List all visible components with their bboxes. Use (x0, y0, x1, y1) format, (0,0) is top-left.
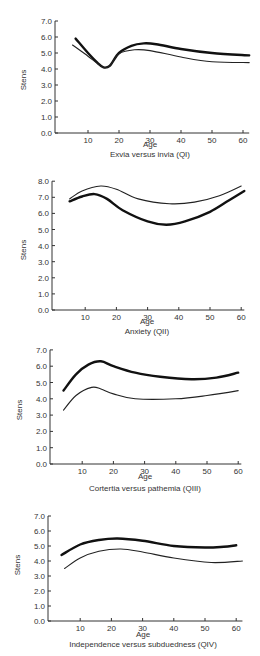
y-tick-label: 4.0 (36, 395, 48, 404)
axes (48, 516, 242, 621)
x-tick-label: 40 (174, 313, 183, 322)
x-tick-label: 50 (201, 624, 210, 633)
chart-caption: Anxiety (QII) (125, 327, 170, 336)
x-tick-label: 10 (76, 624, 85, 633)
y-tick-label: 6.0 (38, 209, 50, 218)
y-axis-label: Stens (15, 400, 24, 420)
x-tick-label: 60 (234, 467, 243, 476)
x-tick-label: 40 (171, 467, 180, 476)
y-tick-label: 5.0 (36, 379, 48, 388)
x-tick-label: 50 (208, 136, 217, 145)
chart-caption: Cortertia versus pathemia (QIII) (89, 484, 201, 493)
stens-by-age-figure: Exvia versus invia (QI) Age Stens 0.01.0… (0, 0, 260, 656)
series-line-thin (64, 387, 239, 410)
y-tick-label: 4.0 (34, 557, 46, 566)
y-axis-label: Stens (19, 240, 28, 260)
y-tick-label: 2.0 (34, 587, 46, 596)
x-tick-label: 30 (138, 624, 147, 633)
y-tick-label: 5.0 (38, 226, 50, 235)
x-tick-label: 50 (206, 313, 215, 322)
chart-caption: Exvia versus invia (QI) (110, 150, 190, 159)
y-tick-label: 0.0 (36, 460, 48, 469)
x-tick-label: 60 (239, 136, 248, 145)
y-axis-label: Stens (19, 70, 28, 90)
chart-cortertia-versus-pathemia: Cortertia versus pathemia (QIII) Age Ste… (15, 346, 243, 493)
series-line-thin (65, 549, 243, 569)
y-tick-label: 3.0 (41, 81, 53, 90)
x-tick-label: 20 (107, 624, 116, 633)
x-tick-label: 40 (169, 624, 178, 633)
series-line-thin (73, 45, 250, 68)
y-tick-label: 7.0 (41, 17, 53, 26)
y-tick-label: 3.0 (38, 258, 50, 267)
y-tick-label: 6.0 (36, 362, 48, 371)
axes (55, 21, 249, 133)
y-tick-label: 2.0 (41, 97, 53, 106)
chart-independence-versus-subduedness: Independence versus subduedness (QIV) Ag… (13, 512, 242, 649)
y-tick-label: 2.0 (36, 427, 48, 436)
y-axis-label: Stens (13, 555, 22, 575)
x-tick-label: 20 (112, 313, 121, 322)
y-tick-label: 3.0 (36, 411, 48, 420)
y-tick-label: 5.0 (41, 49, 53, 58)
y-tick-label: 7.0 (36, 346, 48, 355)
x-tick-label: 50 (203, 467, 212, 476)
x-tick-label: 20 (115, 136, 124, 145)
x-tick-label: 30 (143, 313, 152, 322)
x-tick-label: 10 (81, 313, 90, 322)
chart-anxiety: Anxiety (QII) Age Stens 0.01.02.03.04.05… (19, 177, 246, 336)
y-tick-label: 2.0 (38, 274, 50, 283)
series-line-thick (62, 538, 237, 555)
x-tick-label: 40 (177, 136, 186, 145)
y-tick-label: 1.0 (34, 602, 46, 611)
y-tick-label: 1.0 (41, 113, 53, 122)
chart-caption: Independence versus subduedness (QIV) (69, 640, 217, 649)
y-tick-label: 5.0 (34, 542, 46, 551)
y-tick-label: 6.0 (41, 33, 53, 42)
y-tick-label: 4.0 (41, 65, 53, 74)
y-tick-label: 0.0 (38, 306, 50, 315)
y-tick-label: 3.0 (34, 572, 46, 581)
y-tick-label: 0.0 (41, 129, 53, 138)
chart-exvia-versus-invia: Exvia versus invia (QI) Age Stens 0.01.0… (19, 17, 249, 159)
y-tick-label: 0.0 (34, 617, 46, 626)
y-tick-label: 8.0 (38, 177, 50, 186)
y-tick-label: 1.0 (38, 290, 50, 299)
x-tick-label: 20 (109, 467, 118, 476)
x-tick-label: 10 (78, 467, 87, 476)
y-tick-label: 1.0 (36, 444, 48, 453)
y-tick-label: 7.0 (38, 193, 50, 202)
series-line-thick (64, 361, 239, 390)
x-tick-label: 60 (232, 624, 241, 633)
y-tick-label: 6.0 (34, 527, 46, 536)
y-tick-label: 7.0 (34, 512, 46, 521)
x-tick-label: 30 (140, 467, 149, 476)
x-tick-label: 60 (237, 313, 246, 322)
y-tick-label: 4.0 (38, 242, 50, 251)
x-tick-label: 30 (146, 136, 155, 145)
axes (50, 350, 241, 464)
axes (52, 181, 244, 310)
x-tick-label: 10 (84, 136, 93, 145)
